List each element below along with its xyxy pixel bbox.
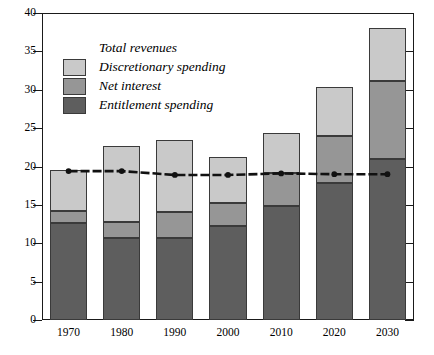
y-axis-tick-right bbox=[405, 167, 414, 168]
legend-label: Entitlement spending bbox=[99, 96, 213, 113]
bar-segment-net-interest bbox=[103, 222, 140, 238]
y-axis-tick-right bbox=[405, 90, 414, 91]
bar-segment-discretionary-spending bbox=[103, 146, 140, 222]
bar-stack bbox=[209, 157, 246, 320]
bar-stack bbox=[316, 87, 353, 320]
y-axis-label: 40 bbox=[25, 7, 37, 19]
bar-segment-entitlement-spending bbox=[369, 159, 406, 320]
bar-segment-entitlement-spending bbox=[103, 238, 140, 320]
x-axis-label: 2000 bbox=[198, 326, 258, 338]
bar-segment-entitlement-spending bbox=[263, 206, 300, 320]
x-axis-label: 1990 bbox=[145, 326, 205, 338]
x-axis-label: 2010 bbox=[251, 326, 311, 338]
bar-segment-discretionary-spending bbox=[316, 87, 353, 136]
legend-swatch-entitlement bbox=[63, 97, 86, 114]
bar-segment-discretionary-spending bbox=[263, 133, 300, 174]
bar-stack bbox=[369, 28, 406, 320]
bar-stack bbox=[263, 133, 300, 320]
y-axis-label: 15 bbox=[25, 199, 37, 211]
bar-segment-net-interest bbox=[209, 203, 246, 225]
bar-segment-net-interest bbox=[156, 212, 193, 238]
x-axis-label: 2020 bbox=[304, 326, 364, 338]
legend-label: Total revenues bbox=[99, 39, 177, 56]
bar-segment-discretionary-spending bbox=[209, 157, 246, 203]
y-axis-label: 0 bbox=[30, 314, 36, 326]
y-axis-label: 10 bbox=[25, 237, 37, 249]
y-axis-tick-right bbox=[405, 243, 414, 244]
x-axis-label: 2030 bbox=[357, 326, 417, 338]
bar-segment-entitlement-spending bbox=[209, 226, 246, 320]
legend-swatch-discretionary bbox=[63, 59, 86, 76]
y-axis-tick-right bbox=[405, 128, 414, 129]
bar-segment-entitlement-spending bbox=[316, 183, 353, 320]
y-axis-tick-right bbox=[405, 13, 414, 14]
y-axis-label: 25 bbox=[25, 122, 37, 134]
bar-stack bbox=[103, 146, 140, 320]
y-axis-label: 20 bbox=[25, 161, 37, 173]
chart-container: 0510152025303540 19701980199020002010202… bbox=[0, 0, 434, 355]
y-axis-tick-right bbox=[405, 282, 414, 283]
bar-segment-discretionary-spending bbox=[50, 170, 87, 211]
y-axis-label: 30 bbox=[25, 84, 37, 96]
bar-segment-net-interest bbox=[316, 136, 353, 183]
legend-swatch-net-interest bbox=[63, 78, 86, 95]
bar-segment-net-interest bbox=[50, 211, 87, 223]
bar-segment-entitlement-spending bbox=[50, 223, 87, 320]
bar-segment-entitlement-spending bbox=[156, 238, 193, 320]
bar-segment-discretionary-spending bbox=[156, 140, 193, 212]
x-axis-label: 1970 bbox=[39, 326, 99, 338]
bar-segment-discretionary-spending bbox=[369, 28, 406, 81]
x-axis-label: 1980 bbox=[92, 326, 152, 338]
legend-label: Net interest bbox=[99, 77, 161, 94]
bar-stack bbox=[50, 170, 87, 320]
bar-segment-net-interest bbox=[369, 81, 406, 159]
bar-segment-net-interest bbox=[263, 173, 300, 206]
y-axis-label: 5 bbox=[30, 276, 36, 288]
y-axis-tick-right bbox=[405, 51, 414, 52]
y-axis-tick-right bbox=[405, 205, 414, 206]
legend-label: Discretionary spending bbox=[99, 58, 226, 75]
y-axis-tick-right bbox=[405, 320, 414, 321]
y-axis-label: 35 bbox=[25, 45, 37, 57]
bar-stack bbox=[156, 140, 193, 320]
